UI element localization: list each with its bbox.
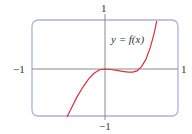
function-label: y = f(x) (111, 33, 144, 45)
y-tick-top: 1 (101, 3, 107, 14)
x-tick-left: −1 (13, 64, 25, 75)
y-tick-bottom: −1 (99, 121, 111, 132)
x-tick-right: 1 (181, 64, 187, 75)
plot-area (0, 0, 192, 134)
